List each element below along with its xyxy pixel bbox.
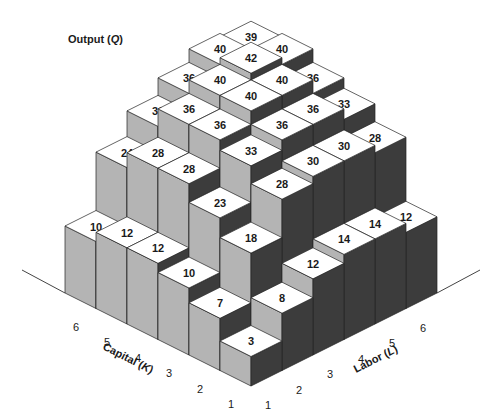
capital-tick: 6 [73,321,79,333]
bar-value-label: 8 [279,292,285,304]
bar-value-label: 39 [245,31,257,43]
bar-value-label: 36 [214,119,226,131]
output-3d-bar-chart: 3940403642363140403324364036281028363630… [0,0,496,412]
bar-value-label: 30 [307,155,319,167]
bar-value-label: 3 [248,335,254,347]
labor-axis-line [437,270,480,293]
bar-value-label: 36 [183,103,195,115]
bar-right-face [406,217,437,309]
bar-value-label: 33 [245,145,257,157]
bar-value-label: 36 [307,103,319,115]
labor-tick: 3 [327,368,333,380]
labor-tick: 6 [420,322,426,334]
bar-value-label: 40 [214,74,226,86]
bar-value-label: 23 [214,197,226,209]
bar-value-label: 12 [121,227,133,239]
bar-value-label: 40 [276,74,288,86]
bar-value-label: 42 [245,52,257,64]
labor-tick: 1 [265,399,271,411]
bar-value-label: 14 [338,233,351,245]
capital-tick: 1 [228,398,234,410]
bar-left-face [96,232,127,324]
bar-value-label: 7 [217,297,223,309]
bar-value-label: 28 [152,147,164,159]
bar-left-face [127,248,158,340]
bar-value-label: 10 [183,267,195,279]
bar-value-label: 18 [245,232,257,244]
bar-value-label: 28 [183,163,195,175]
bar-value-label: 40 [276,43,288,55]
capital-tick: 3 [166,367,172,379]
capital-axis-line [22,270,65,293]
bar-value-label: 40 [245,90,257,102]
bar-right-face [313,263,344,355]
capital-tick: 2 [197,383,203,395]
bar-value-label: 12 [307,258,319,270]
bar-right-face [344,239,375,340]
bar-value-label: 14 [369,218,382,230]
labor-tick: 2 [296,384,302,396]
bar-right-face [375,223,406,324]
bar-value-label: 40 [214,43,226,55]
capital-axis-label: Capital (K) [101,340,156,376]
bar-value-label: 12 [152,242,164,254]
bars: 3940403642363140403324364036281028363630… [65,21,437,386]
bar-value-label: 28 [369,132,381,144]
bar-value-label: 28 [276,178,288,190]
bar-value-label: 36 [276,119,288,131]
bar-value-label: 30 [338,140,350,152]
